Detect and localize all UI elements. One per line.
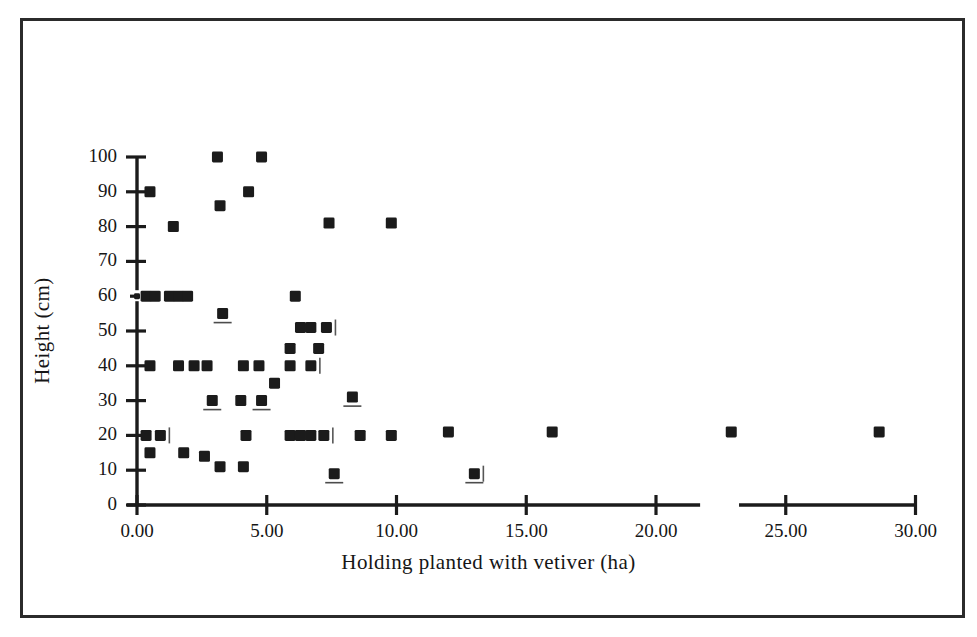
data-point bbox=[238, 360, 249, 371]
data-point bbox=[150, 291, 161, 302]
data-point bbox=[144, 186, 155, 197]
data-point bbox=[318, 430, 329, 441]
data-point bbox=[253, 360, 264, 371]
data-markers-group bbox=[134, 152, 885, 483]
data-point bbox=[256, 152, 267, 163]
data-point bbox=[189, 360, 200, 371]
data-point bbox=[199, 451, 210, 462]
data-point bbox=[243, 186, 254, 197]
data-point bbox=[547, 426, 558, 437]
data-point bbox=[443, 426, 454, 437]
data-point bbox=[144, 360, 155, 371]
data-point bbox=[141, 430, 152, 441]
x-tick-label: 15.00 bbox=[481, 520, 571, 542]
data-point bbox=[295, 322, 306, 333]
scatter-plot: Height (cm) Holding planted with vetiver… bbox=[0, 0, 977, 637]
data-point bbox=[215, 200, 226, 211]
data-point bbox=[295, 430, 306, 441]
data-point bbox=[285, 360, 296, 371]
data-point bbox=[313, 343, 324, 354]
y-tick-label: 10 bbox=[71, 458, 117, 480]
data-point bbox=[285, 430, 296, 441]
data-point bbox=[305, 430, 316, 441]
data-point bbox=[202, 360, 213, 371]
data-point bbox=[134, 293, 140, 299]
data-point bbox=[207, 395, 218, 406]
y-tick-label: 80 bbox=[71, 215, 117, 237]
x-tick-label: 30.00 bbox=[871, 520, 961, 542]
data-point bbox=[355, 430, 366, 441]
y-tick-label: 100 bbox=[71, 145, 117, 167]
data-point bbox=[256, 395, 267, 406]
x-tick-label: 10.00 bbox=[352, 520, 442, 542]
data-point bbox=[173, 360, 184, 371]
data-point bbox=[726, 426, 737, 437]
data-point bbox=[155, 430, 166, 441]
x-tick-label: 0.00 bbox=[92, 520, 182, 542]
figure-container: Height (cm) Holding planted with vetiver… bbox=[0, 0, 977, 637]
data-point bbox=[240, 430, 251, 441]
data-point bbox=[235, 395, 246, 406]
data-point bbox=[215, 461, 226, 472]
x-tick-label: 20.00 bbox=[611, 520, 701, 542]
y-tick-label: 30 bbox=[71, 389, 117, 411]
y-tick-label: 60 bbox=[71, 284, 117, 306]
data-point bbox=[305, 322, 316, 333]
data-point bbox=[324, 218, 335, 229]
y-tick-label: 20 bbox=[71, 423, 117, 445]
data-point bbox=[269, 378, 280, 389]
data-point bbox=[178, 447, 189, 458]
data-point bbox=[305, 360, 316, 371]
data-point bbox=[469, 468, 480, 479]
data-point bbox=[329, 468, 340, 479]
x-axis-title: Holding planted with vetiver (ha) bbox=[0, 550, 977, 575]
data-point bbox=[212, 152, 223, 163]
y-tick-label: 50 bbox=[71, 319, 117, 341]
y-tick-label: 40 bbox=[71, 354, 117, 376]
data-point bbox=[217, 308, 228, 319]
y-tick-label: 0 bbox=[71, 493, 117, 515]
data-point bbox=[386, 430, 397, 441]
y-axis-title: Height (cm) bbox=[30, 231, 55, 431]
data-point bbox=[290, 291, 301, 302]
data-point bbox=[238, 461, 249, 472]
x-tick-label: 5.00 bbox=[222, 520, 312, 542]
y-tick-label: 70 bbox=[71, 249, 117, 271]
data-point bbox=[168, 221, 179, 232]
data-point bbox=[285, 343, 296, 354]
data-point bbox=[182, 291, 193, 302]
data-point bbox=[874, 426, 885, 437]
data-point bbox=[321, 322, 332, 333]
data-point bbox=[347, 392, 358, 403]
x-tick-label: 25.00 bbox=[741, 520, 831, 542]
y-tick-label: 90 bbox=[71, 180, 117, 202]
data-point bbox=[144, 447, 155, 458]
data-point bbox=[386, 218, 397, 229]
